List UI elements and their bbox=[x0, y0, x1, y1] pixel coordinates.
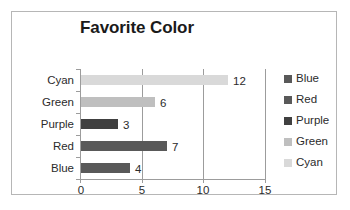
bar-blue[interactable] bbox=[81, 163, 130, 173]
category-label-purple: Purple bbox=[20, 119, 74, 131]
x-tick-label-0: 0 bbox=[69, 185, 93, 197]
gridline-5 bbox=[142, 69, 143, 179]
category-label-green: Green bbox=[20, 97, 74, 109]
gridline-15 bbox=[265, 69, 266, 179]
chart-container[interactable]: Favorite Color 0 5 10 15 Cyan Green Purp… bbox=[11, 11, 337, 195]
gridline-10 bbox=[203, 69, 204, 179]
data-label-green: 6 bbox=[160, 98, 166, 110]
y-tick bbox=[76, 69, 80, 70]
legend-swatch-cyan-icon bbox=[284, 159, 292, 167]
x-tick-label-15: 15 bbox=[253, 185, 277, 197]
y-tick bbox=[76, 157, 80, 158]
x-tick-15 bbox=[265, 179, 266, 183]
x-tick-label-5: 5 bbox=[130, 185, 154, 197]
bar-red[interactable] bbox=[81, 141, 167, 151]
chart-title: Favorite Color bbox=[12, 18, 262, 38]
legend-label-purple: Purple bbox=[296, 114, 329, 127]
bar-cyan[interactable] bbox=[81, 75, 228, 85]
y-tick bbox=[76, 113, 80, 114]
bar-purple[interactable] bbox=[81, 119, 118, 129]
legend-swatch-red-icon bbox=[284, 96, 292, 104]
category-label-blue: Blue bbox=[20, 163, 74, 175]
x-axis-line bbox=[80, 179, 266, 180]
x-tick-label-10: 10 bbox=[191, 185, 215, 197]
legend-swatch-green-icon bbox=[284, 138, 292, 146]
legend-label-red: Red bbox=[296, 93, 317, 106]
y-tick bbox=[76, 135, 80, 136]
legend-swatch-blue-icon bbox=[284, 75, 292, 83]
data-label-cyan: 12 bbox=[233, 76, 246, 88]
category-label-cyan: Cyan bbox=[20, 75, 74, 87]
legend-label-blue: Blue bbox=[296, 72, 319, 85]
x-tick-0 bbox=[80, 179, 81, 183]
data-label-blue: 4 bbox=[135, 164, 141, 176]
legend-label-cyan: Cyan bbox=[296, 156, 323, 169]
bar-green[interactable] bbox=[81, 97, 155, 107]
legend-swatch-purple-icon bbox=[284, 117, 292, 125]
data-label-red: 7 bbox=[172, 142, 178, 154]
data-label-purple: 3 bbox=[123, 120, 129, 132]
legend-label-green: Green bbox=[296, 135, 328, 148]
x-tick-10 bbox=[203, 179, 204, 183]
x-tick-5 bbox=[142, 179, 143, 183]
y-tick bbox=[76, 91, 80, 92]
category-label-red: Red bbox=[20, 141, 74, 153]
